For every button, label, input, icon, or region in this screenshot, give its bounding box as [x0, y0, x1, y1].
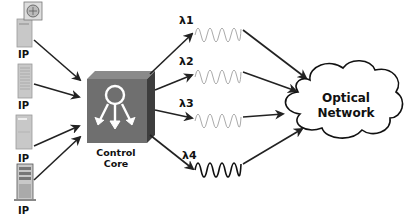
- arrow: [34, 126, 79, 146]
- source-ip-2: IP: [18, 64, 32, 111]
- cloud-label-line2: Network: [317, 106, 375, 120]
- source-ip-3: IP: [16, 115, 32, 164]
- tower-server-icon: [18, 64, 32, 98]
- source-label: IP: [18, 205, 29, 216]
- wavelength-label-3: λ3: [179, 97, 194, 110]
- arrow: [155, 75, 192, 90]
- arrow: [34, 84, 79, 97]
- source-label: IP: [18, 153, 29, 164]
- wave-lambda-2: [195, 70, 241, 84]
- desktop-server-icon: [16, 115, 32, 149]
- arrow: [155, 110, 192, 118]
- control-core-label-line1: Control: [96, 147, 135, 158]
- wave-lambda-3: [195, 114, 241, 128]
- arrow: [243, 114, 283, 117]
- wavelength-label-4: λ4: [182, 149, 197, 162]
- source-to-core-arrows: [34, 40, 80, 180]
- source-ip-4: IP: [14, 164, 36, 216]
- arrow: [243, 72, 296, 91]
- cloud-label-line1: Optical: [322, 91, 370, 105]
- arrow: [243, 30, 306, 78]
- control-core: Control Core: [87, 71, 155, 169]
- arrow: [34, 40, 80, 80]
- arrow: [243, 129, 302, 164]
- control-core-label-line2: Core: [104, 158, 129, 169]
- wave-lambda-4: [195, 163, 241, 177]
- source-label: IP: [18, 100, 29, 111]
- optical-network-cloud: Optical Network: [285, 61, 402, 138]
- wavelength-label-1: λ1: [179, 14, 194, 27]
- arrow: [150, 34, 192, 74]
- source-ip-1: IP: [17, 2, 42, 60]
- workstation-with-monitor-icon: [17, 2, 42, 47]
- source-label: IP: [18, 49, 29, 60]
- wavelength-label-2: λ2: [179, 55, 194, 68]
- rack-server-icon: [14, 164, 36, 201]
- wave-lambda-1: [195, 28, 241, 42]
